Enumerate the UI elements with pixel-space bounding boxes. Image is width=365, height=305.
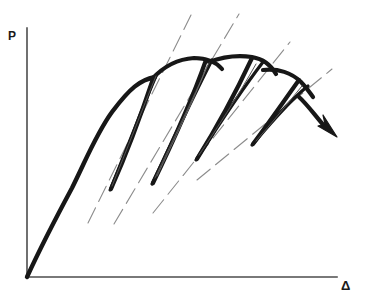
y-axis-label: P [8, 30, 16, 42]
hysteresis-loop-1-inner-pinch [112, 76, 156, 186]
x-axis-label: Δ [341, 279, 350, 292]
descending-branch-arrowhead [318, 115, 337, 137]
axes-group [27, 28, 337, 277]
initial-loading-branch [27, 77, 155, 277]
figure-root: P Δ [0, 0, 365, 305]
hysteresis-loop-4-inner-pinch [256, 86, 302, 141]
tangent-dashed-lines-group [88, 14, 332, 224]
pdelta-chart-canvas [0, 0, 365, 305]
curve-ink-group [27, 56, 326, 277]
descending-branch [299, 97, 326, 128]
